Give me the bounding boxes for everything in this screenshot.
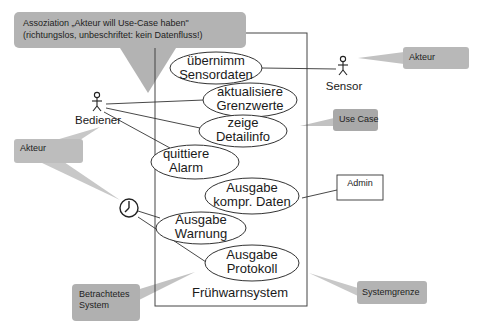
actor-label: Sensor	[326, 80, 363, 92]
system-name: Frühwarnsystem	[192, 285, 288, 300]
actor-label: Admin	[347, 178, 373, 188]
callout-text: Betrachtetes	[79, 289, 130, 299]
use-case-label: übernimm	[187, 53, 245, 68]
callout-pointer-akteur-left-top	[56, 127, 100, 140]
use-case-label: Grenzwerte	[216, 98, 283, 113]
callout-pointer-systemgrenze	[309, 273, 358, 296]
use-case-quittiere-alarm[interactable]: quittiere Alarm	[151, 145, 239, 179]
use-case-label: quittiere	[163, 146, 209, 161]
use-case-zeige-detailinfo[interactable]: zeige Detailinfo	[199, 115, 287, 147]
actor-admin[interactable]: Admin	[337, 175, 383, 200]
actor-sensor[interactable]: Sensor	[326, 56, 363, 92]
callout-betrachtetes-system: Betrachtetes System	[72, 284, 140, 321]
assoc-sensor-uc1	[262, 68, 336, 69]
callout-association: Assoziation „Akteur will Use-Case haben"…	[14, 12, 246, 48]
callout-text: Use Case	[339, 114, 379, 124]
use-case-diagram: Frühwarnsystem übernimm Sensordaten aktu…	[0, 0, 484, 334]
use-case-label: Sensordaten	[179, 67, 253, 82]
actor-label: Bediener	[75, 114, 121, 126]
callout-text: (richtungslos, unbeschriftet: kein Daten…	[23, 30, 203, 40]
callout-text: Akteur	[409, 52, 435, 62]
actor-timer[interactable]	[120, 199, 138, 217]
callout-akteur-right: Akteur	[403, 47, 469, 69]
callout-pointer-use-case	[300, 118, 334, 126]
use-case-uebernimm-sensordaten[interactable]: übernimm Sensordaten	[170, 52, 262, 84]
callout-pointer-akteur-right	[358, 52, 404, 64]
use-case-label: Ausgabe	[175, 212, 226, 227]
callout-akteur-left: Akteur	[14, 139, 83, 163]
assoc-timer-uc6	[138, 211, 160, 218]
use-case-ausgabe-warnung[interactable]: Ausgabe Warnung	[156, 212, 246, 244]
use-case-label: Ausgabe	[226, 247, 277, 262]
use-case-label: aktualisiere	[217, 84, 283, 99]
callout-pointer-akteur-left-bottom	[40, 162, 120, 200]
use-case-label: Protokoll	[227, 261, 278, 276]
use-case-ausgabe-kompr-daten[interactable]: Ausgabe kompr. Daten	[205, 178, 299, 214]
callout-text: Systemgrenze	[362, 287, 420, 297]
stick-figure-icon	[92, 92, 102, 111]
callout-systemgrenze: Systemgrenze	[357, 281, 427, 304]
callout-pointer-association	[120, 48, 176, 93]
clock-icon	[120, 199, 138, 217]
use-case-aktualisiere-grenzwerte[interactable]: aktualisiere Grenzwerte	[203, 83, 297, 117]
use-case-ausgabe-protokoll[interactable]: Ausgabe Protokoll	[205, 245, 299, 281]
use-case-label: zeige	[227, 115, 258, 130]
callout-text: System	[79, 300, 109, 310]
use-case-label: Detailinfo	[216, 129, 270, 144]
callout-use-case: Use Case	[333, 109, 379, 131]
callout-text: Assoziation „Akteur will Use-Case haben"	[23, 18, 189, 28]
actor-bediener[interactable]: Bediener	[75, 92, 121, 126]
stick-figure-icon	[338, 56, 348, 75]
use-case-label: Ausgabe	[226, 180, 277, 195]
callout-text: Akteur	[20, 143, 46, 153]
use-case-label: Alarm	[169, 160, 203, 175]
use-case-label: kompr. Daten	[213, 194, 290, 209]
use-case-label: Warnung	[175, 226, 227, 241]
